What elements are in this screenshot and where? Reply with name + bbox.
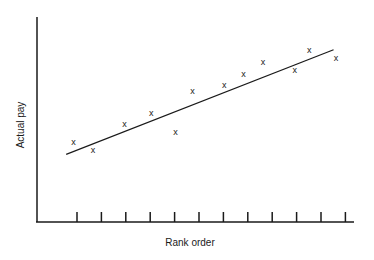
data-point-x-marker: x [71, 137, 76, 147]
data-point-x-marker: x [173, 127, 178, 137]
data-point-x-marker: x [292, 65, 297, 75]
data-point-x-marker: x [91, 145, 96, 155]
data-point-x-marker: x [122, 119, 127, 129]
x-axis-label: Rank order [165, 237, 215, 248]
data-point-x-marker: x [149, 108, 154, 118]
data-point-x-marker: x [222, 80, 227, 90]
data-point-x-marker: x [241, 69, 246, 79]
data-point-x-marker: x [334, 53, 339, 63]
scatter-chart: xxxxxxxxxxxx Rank order Actual pay [0, 0, 374, 260]
data-point-x-marker: x [261, 57, 266, 67]
data-point-x-marker: x [307, 45, 312, 55]
y-axis-label: Actual pay [15, 102, 26, 149]
x-axis-ticks [77, 212, 345, 222]
data-point-x-marker: x [190, 86, 195, 96]
